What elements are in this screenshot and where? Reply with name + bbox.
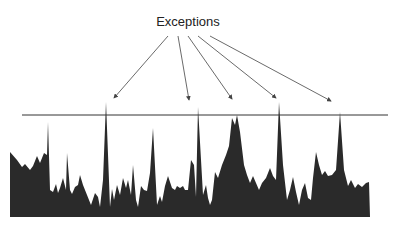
arrow-icon	[178, 36, 189, 100]
data-area-series	[10, 102, 370, 217]
arrow-icon	[114, 36, 168, 98]
arrow-icon	[210, 36, 331, 101]
exception-arrows	[114, 36, 331, 101]
exceptions-diagram	[0, 0, 402, 228]
